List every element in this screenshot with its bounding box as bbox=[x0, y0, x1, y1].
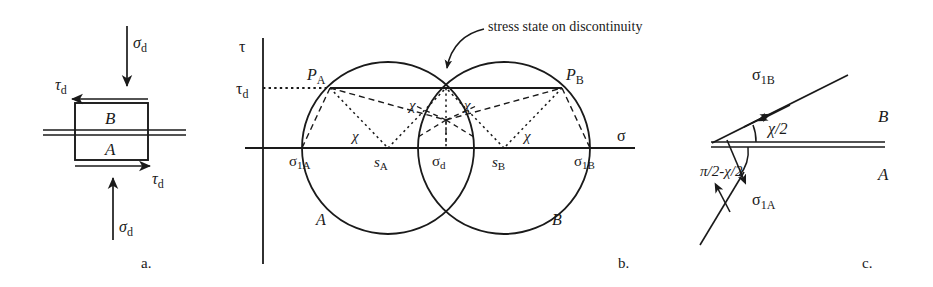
panel-c: σ1B χ/2 π/2-χ/2 σ1A B A c. bbox=[700, 66, 889, 271]
tau-axis-label: τ bbox=[239, 38, 246, 55]
sigma1B-arrow-inner bbox=[762, 105, 790, 119]
sigma-d-label: σd bbox=[432, 153, 446, 171]
sigma1B-label-c: σ1B bbox=[752, 66, 775, 87]
chord-PA-sigma1A bbox=[302, 88, 330, 148]
sB-label: sB bbox=[492, 154, 505, 172]
sigma1A-stress-line bbox=[700, 172, 744, 245]
block-label-A: A bbox=[104, 140, 116, 159]
chord-PB-sigma1B bbox=[562, 88, 590, 148]
pole-label-PA: PA bbox=[306, 66, 326, 87]
sigma1B-arrow-outer bbox=[744, 116, 766, 127]
tau-d-top-label: τd bbox=[55, 76, 67, 97]
sigma1A-label-c: σ1A bbox=[752, 191, 776, 212]
chord-PA-to-intersection bbox=[330, 88, 446, 120]
chi-label-2: χ bbox=[462, 97, 471, 113]
sigma-d-bottom-label: σd bbox=[119, 218, 133, 239]
pole-label-PB: PB bbox=[565, 66, 584, 87]
sigma-d-top-label: σd bbox=[133, 34, 147, 55]
radius-sB-intersection bbox=[446, 88, 504, 148]
panel-a-caption: a. bbox=[141, 255, 151, 271]
chi-label-3: χ bbox=[350, 128, 359, 144]
figure-root: σd τd B A τd σd a. τ σ bbox=[0, 0, 933, 287]
circle-label-B: B bbox=[552, 211, 562, 228]
panel-a: σd τd B A τd σd a. bbox=[43, 26, 186, 271]
sigma-axis-label: σ bbox=[617, 127, 626, 144]
stress-state-annotation: stress state on discontinuity bbox=[488, 19, 642, 34]
sigma1A-label: σ1A bbox=[289, 153, 311, 171]
angle-arc-upper bbox=[753, 125, 756, 142]
angle-label-lower: π/2-χ/2 bbox=[700, 163, 743, 179]
annotation-leader-line bbox=[447, 29, 484, 68]
chi-label-1: χ bbox=[407, 97, 416, 113]
tau-d-axis-label: τd bbox=[236, 80, 248, 101]
radius-PA-sA bbox=[330, 88, 388, 148]
region-label-A: A bbox=[877, 165, 889, 184]
ray-right-up bbox=[446, 106, 476, 120]
chi-label-4: χ bbox=[522, 128, 531, 144]
block-label-B: B bbox=[105, 109, 116, 128]
angle-label-upper: χ/2 bbox=[766, 120, 787, 138]
sigma1B-label: σ1B bbox=[574, 153, 595, 171]
region-label-B: B bbox=[878, 107, 889, 126]
panel-b: τ σ τd bbox=[236, 19, 642, 271]
panel-c-caption: c. bbox=[862, 255, 872, 271]
radius-PB-sB bbox=[504, 88, 562, 148]
circle-label-A: A bbox=[315, 211, 326, 228]
panel-b-caption: b. bbox=[618, 255, 629, 271]
tau-d-bottom-label: τd bbox=[152, 170, 164, 191]
sA-label: sA bbox=[374, 154, 388, 172]
figure-svg: σd τd B A τd σd a. τ σ bbox=[0, 0, 933, 287]
